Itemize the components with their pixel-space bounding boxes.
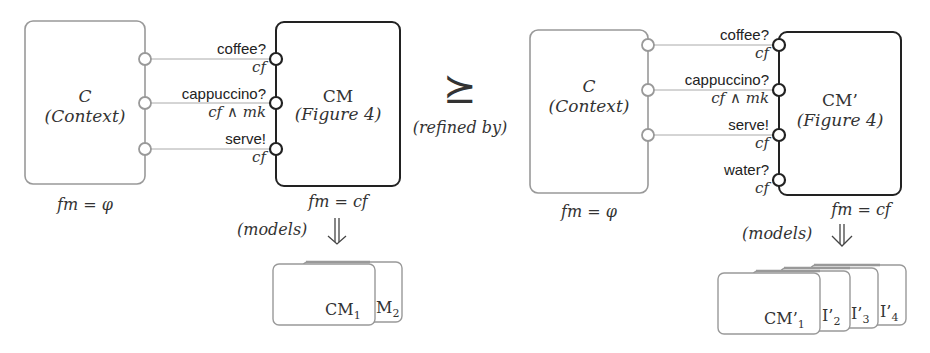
right-port-label-serve: serve! <box>660 116 769 133</box>
right-port-label-cappuccino: cappuccino? <box>650 71 769 88</box>
right-context-name: C <box>530 76 648 96</box>
right-models-arrow-icon <box>832 224 852 246</box>
right-component-name: CM’ <box>779 90 901 110</box>
right-port-guard-serve: cf <box>660 134 769 152</box>
left-component-port-serve <box>270 143 282 155</box>
left-port-label-cappuccino: cappuccino? <box>150 85 266 102</box>
right-product-label-4: I’4 <box>880 302 898 324</box>
right-component-subtitle: (Figure 4) <box>779 110 901 130</box>
right-component-fm: fm = cf <box>800 200 922 219</box>
left-port-label-coffee: coffee? <box>160 40 266 57</box>
right-port-guard-cappuccino: cf ∧ mk <box>650 89 769 107</box>
left-port-label-serve: serve! <box>160 130 266 147</box>
right-port-guard-water: cf <box>660 179 769 197</box>
left-product-label-2: M2 <box>376 298 399 320</box>
left-component-subtitle: (Figure 4) <box>276 104 400 124</box>
right-context-subtitle: (Context) <box>530 96 648 116</box>
right-component-port-water <box>773 174 785 186</box>
right-models-label: (models) <box>742 224 812 243</box>
left-context-port-coffee <box>139 53 151 65</box>
right-port-label-water: water? <box>660 161 769 178</box>
left-port-guard-coffee: cf <box>160 58 266 76</box>
right-component-port-serve <box>773 129 785 141</box>
refinement-diagram: C (Context) fm = φ coffee? cf cappuccino… <box>0 0 930 353</box>
right-product-label-1: CM’1 <box>764 309 805 331</box>
right-product-label-2: I’2 <box>822 306 840 328</box>
left-port-guard-serve: cf <box>160 148 266 166</box>
left-component-fm: fm = cf <box>276 192 400 211</box>
right-product-label-3: I’3 <box>851 304 869 326</box>
diagram-shapes <box>0 0 930 353</box>
right-context-fm: fm = φ <box>530 202 648 221</box>
left-context-name: C <box>25 86 145 106</box>
left-context-subtitle: (Context) <box>25 106 145 126</box>
right-port-label-coffee: coffee? <box>660 26 769 43</box>
right-context-port-serve <box>642 129 654 141</box>
right-component-port-coffee <box>773 39 785 51</box>
refinement-symbol: ⪰ <box>405 68 515 108</box>
left-component-port-coffee <box>270 53 282 65</box>
left-product-label-1: CM1 <box>325 300 361 322</box>
left-models-label: (models) <box>237 220 307 239</box>
left-context-port-serve <box>139 143 151 155</box>
left-models-arrow-icon <box>328 218 346 244</box>
left-port-guard-cappuccino: cf ∧ mk <box>150 103 266 121</box>
right-context-port-coffee <box>642 39 654 51</box>
left-component-name: CM <box>276 86 400 106</box>
refinement-label: (refined by) <box>405 118 515 137</box>
right-port-guard-coffee: cf <box>660 44 769 62</box>
left-context-fm: fm = φ <box>25 195 145 214</box>
